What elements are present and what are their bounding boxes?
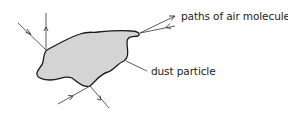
dust-particle-shape bbox=[37, 31, 139, 87]
molecule-path-outgoing-bottom bbox=[90, 86, 109, 108]
label-paths-of-air-molecules: paths of air molecules bbox=[181, 10, 288, 22]
molecule-path-incoming-bottom bbox=[58, 86, 90, 104]
label-dust-particle: dust particle bbox=[151, 65, 216, 77]
molecule-path-incoming-left bbox=[18, 23, 46, 50]
molecule-path-incoming-right bbox=[140, 26, 175, 33]
molecule-path-outgoing-right bbox=[140, 16, 175, 33]
particle-leader-line bbox=[126, 61, 147, 71]
arrow-icon bbox=[166, 24, 171, 29]
arrow-icon bbox=[26, 29, 32, 35]
